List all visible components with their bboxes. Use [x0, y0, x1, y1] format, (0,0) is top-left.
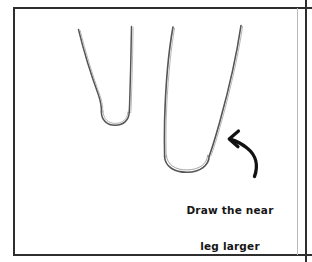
far-leg-foot-ghost	[103, 111, 128, 123]
caption-line-1: Draw the near	[160, 204, 300, 216]
far-leg-outer-contour	[79, 30, 102, 113]
far-leg	[79, 27, 134, 126]
drawing-tutorial-panel: Draw the near leg larger	[0, 0, 312, 262]
panel-border-right-outer	[305, 0, 307, 262]
near-leg	[164, 26, 242, 173]
near-leg-right-contour	[209, 26, 241, 157]
caption-line-2: leg larger	[160, 240, 300, 252]
instruction-caption: Draw the near leg larger	[160, 180, 300, 262]
curved-arrow-icon	[229, 131, 256, 177]
